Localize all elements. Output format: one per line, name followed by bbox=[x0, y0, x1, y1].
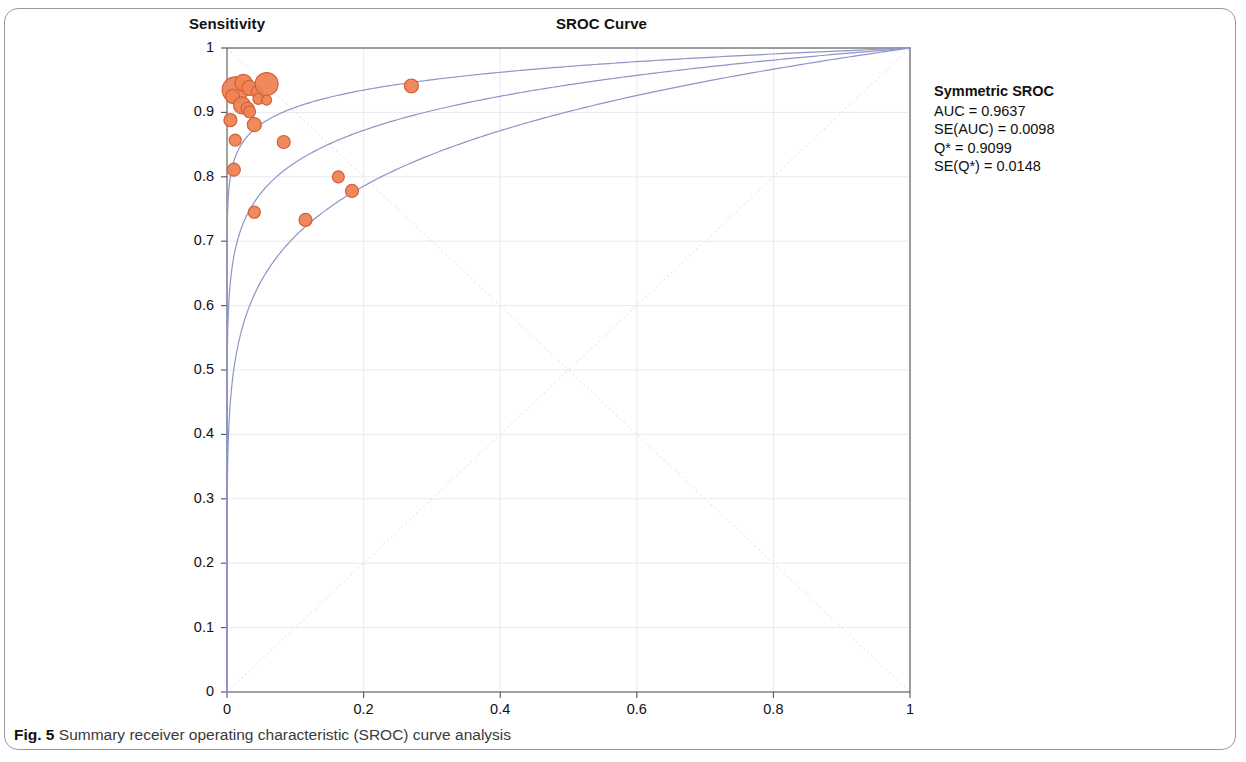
caption-text: Summary receiver operating characteristi… bbox=[59, 726, 511, 743]
scatter-point bbox=[247, 118, 261, 132]
x-tick-label: 0.6 bbox=[615, 701, 659, 717]
scatter-point bbox=[244, 106, 256, 118]
scatter-point bbox=[299, 213, 312, 226]
x-tick-label: 1 bbox=[888, 701, 932, 717]
y-tick-label: 1 bbox=[170, 39, 214, 55]
scatter-point bbox=[262, 95, 272, 105]
y-tick-label: 0.4 bbox=[170, 425, 214, 441]
y-tick-label: 0.9 bbox=[170, 103, 214, 119]
scatter-points bbox=[222, 73, 418, 227]
scatter-point bbox=[255, 73, 278, 96]
y-tick-label: 0.2 bbox=[170, 554, 214, 570]
stats-q-star: Q* = 0.9099 bbox=[934, 139, 1164, 158]
stats-auc: AUC = 0.9637 bbox=[934, 102, 1164, 121]
y-tick-label: 0.7 bbox=[170, 232, 214, 248]
figure-caption: Fig. 5 Summary receiver operating charac… bbox=[14, 726, 1214, 744]
stats-se-auc: SE(AUC) = 0.0098 bbox=[934, 120, 1164, 139]
scatter-point bbox=[277, 136, 290, 149]
scatter-point bbox=[224, 114, 237, 127]
y-tick-label: 0.5 bbox=[170, 361, 214, 377]
scatter-point bbox=[229, 134, 241, 146]
scatter-point bbox=[332, 171, 344, 183]
stats-annotation: Symmetric SROC AUC = 0.9637 SE(AUC) = 0.… bbox=[934, 82, 1164, 176]
sroc-chart: SROC Curve Sensitivity 00.10.20.30.40.50… bbox=[0, 0, 1246, 762]
x-tick-label: 0.2 bbox=[342, 701, 386, 717]
x-tick-label: 0 bbox=[205, 701, 249, 717]
stats-se-q-star: SE(Q*) = 0.0148 bbox=[934, 157, 1164, 176]
caption-label: Fig. 5 bbox=[14, 726, 54, 743]
scatter-point bbox=[248, 206, 260, 218]
scatter-point bbox=[345, 184, 358, 197]
x-tick-label: 0.8 bbox=[751, 701, 795, 717]
scatter-point bbox=[404, 79, 418, 93]
y-tick-label: 0.6 bbox=[170, 297, 214, 313]
y-tick-label: 0.8 bbox=[170, 168, 214, 184]
stats-title: Symmetric SROC bbox=[934, 82, 1164, 101]
y-tick-label: 0.1 bbox=[170, 619, 214, 635]
scatter-point bbox=[227, 163, 240, 176]
x-tick-label: 0.4 bbox=[478, 701, 522, 717]
y-tick-label: 0 bbox=[170, 683, 214, 699]
y-tick-label: 0.3 bbox=[170, 490, 214, 506]
